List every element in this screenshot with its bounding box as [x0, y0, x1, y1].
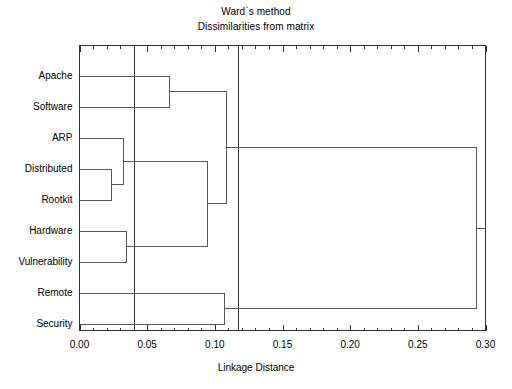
x-tick-label: 0.25	[388, 340, 448, 350]
plot-frame	[80, 46, 486, 331]
leaf-label: Remote	[0, 288, 73, 298]
dendrogram-figure: Ward`s method Dissimilarities from matri…	[0, 0, 512, 389]
leaf-label: Distributed	[0, 164, 73, 174]
leaf-label: ARP	[0, 133, 73, 143]
dendrogram-links	[80, 77, 486, 325]
x-tick-label: 0.30	[456, 340, 512, 350]
x-axis-title: Linkage Distance	[0, 362, 512, 373]
leaf-label: Vulnerability	[0, 257, 73, 267]
x-tick-label: 0.00	[50, 340, 110, 350]
leaf-label: Hardware	[0, 226, 73, 236]
x-tick-label: 0.20	[320, 340, 380, 350]
leaf-label: Security	[0, 319, 73, 329]
axis-ticks	[81, 46, 487, 331]
cut-line-group	[135, 46, 239, 331]
leaf-label: Software	[0, 102, 73, 112]
x-tick-label: 0.05	[117, 340, 177, 350]
plot-area	[0, 0, 512, 389]
x-tick-label: 0.10	[185, 340, 245, 350]
leaf-label: Rootkit	[0, 195, 73, 205]
x-tick-label: 0.15	[253, 340, 313, 350]
leaf-label: Apache	[0, 71, 73, 81]
